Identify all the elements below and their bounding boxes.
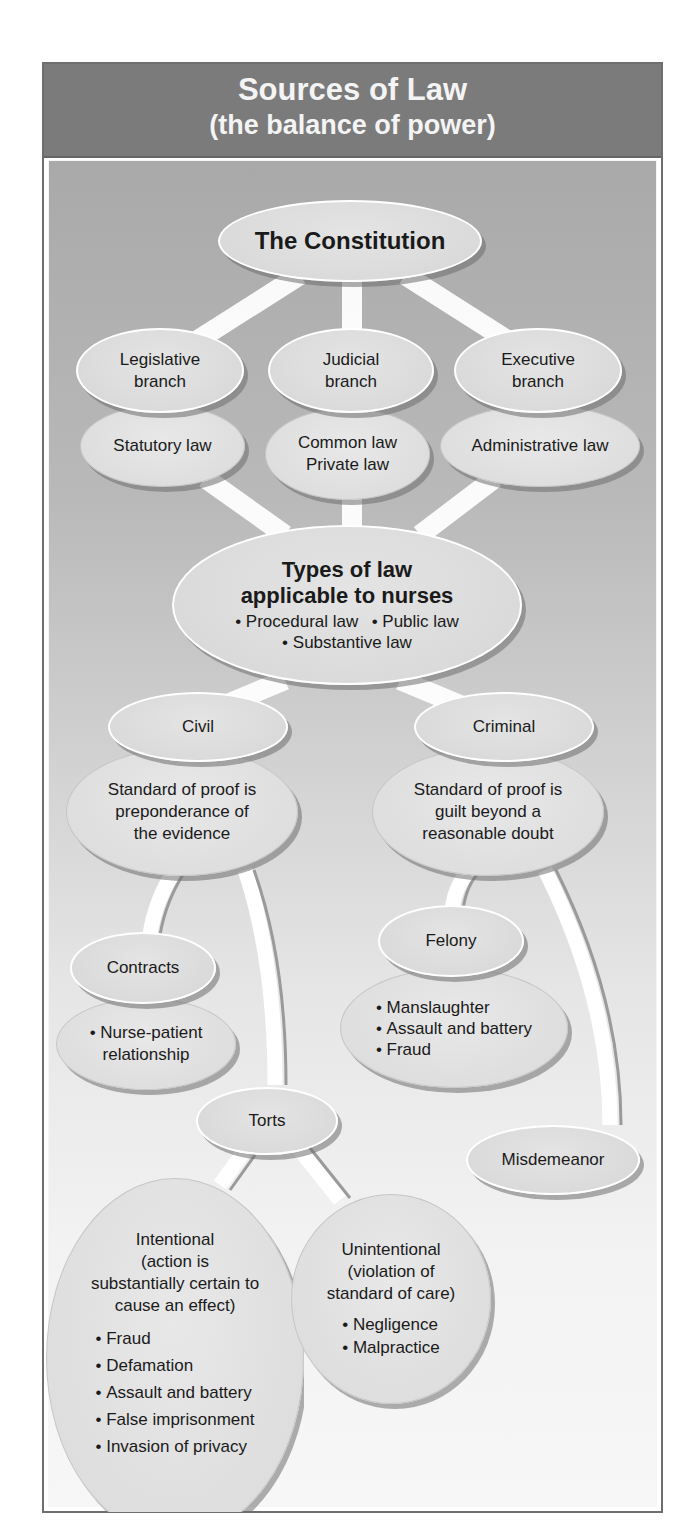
unintentional-title-line1: Unintentional bbox=[341, 1239, 440, 1261]
legislative-branch-line1: Legislative bbox=[120, 349, 200, 371]
intentional-items: Fraud Defamation Assault and battery Fal… bbox=[95, 1325, 254, 1460]
intentional-title-line2: (action is bbox=[141, 1251, 209, 1273]
types-items-row2: Substantive law bbox=[282, 632, 412, 653]
intentional-title-line1: Intentional bbox=[136, 1229, 214, 1251]
contracts-item-line2: relationship bbox=[103, 1044, 190, 1066]
types-of-law-oval: Types of law applicable to nurses Proced… bbox=[172, 525, 522, 685]
felony-item: Assault and battery bbox=[376, 1018, 532, 1039]
unintentional-oval: Unintentional (violation of standard of … bbox=[291, 1194, 491, 1404]
intentional-item: Invasion of privacy bbox=[95, 1433, 254, 1460]
civil-label: Civil bbox=[182, 716, 214, 738]
diagram-header: Sources of Law (the balance of power) bbox=[44, 64, 661, 158]
constitution-label: The Constitution bbox=[255, 226, 446, 256]
executive-branch-line2: branch bbox=[512, 371, 564, 393]
contracts-oval: Contracts bbox=[70, 932, 216, 1004]
types-item-procedural: Procedural law bbox=[235, 612, 358, 631]
types-item-substantive: Substantive law bbox=[282, 633, 412, 652]
legislative-branch-oval: Legislative branch bbox=[76, 328, 244, 413]
criminal-standard-line2: guilt beyond a bbox=[435, 801, 541, 823]
private-law-label: Private law bbox=[306, 454, 389, 476]
unintentional-items: Negligence Malpractice bbox=[342, 1313, 440, 1359]
civil-standard-line1: Standard of proof is bbox=[108, 779, 256, 801]
criminal-oval: Criminal bbox=[414, 692, 594, 762]
diagram-title: Sources of Law bbox=[44, 64, 661, 108]
civil-oval: Civil bbox=[108, 692, 288, 762]
felony-items: Manslaughter Assault and battery Fraud bbox=[376, 997, 532, 1060]
intentional-item: Defamation bbox=[95, 1352, 254, 1379]
torts-oval: Torts bbox=[196, 1087, 338, 1155]
common-law-label: Common law bbox=[298, 432, 397, 454]
statutory-law-label: Statutory law bbox=[113, 435, 211, 457]
judicial-branch-oval: Judicial branch bbox=[268, 328, 434, 413]
contracts-detail-oval: • Nurse-patient relationship bbox=[56, 998, 236, 1090]
types-items-row1: Procedural law Public law bbox=[235, 611, 459, 632]
administrative-law-oval: Administrative law bbox=[440, 405, 640, 487]
unintentional-title-line3: standard of care) bbox=[327, 1283, 456, 1305]
misdemeanor-oval: Misdemeanor bbox=[466, 1125, 640, 1195]
intentional-item: Fraud bbox=[95, 1325, 254, 1352]
intentional-item: Assault and battery bbox=[95, 1379, 254, 1406]
types-title-line2: applicable to nurses bbox=[241, 583, 454, 609]
judicial-branch-line2: branch bbox=[325, 371, 377, 393]
intentional-item: False imprisonment bbox=[95, 1406, 254, 1433]
felony-item: Manslaughter bbox=[376, 997, 532, 1018]
felony-oval: Felony bbox=[378, 905, 524, 977]
constitution-oval: The Constitution bbox=[218, 200, 482, 282]
executive-branch-oval: Executive branch bbox=[454, 328, 622, 413]
contracts-item-line1: • Nurse-patient bbox=[90, 1022, 203, 1044]
judicial-branch-line1: Judicial bbox=[323, 349, 380, 371]
civil-standard-line2: preponderance of bbox=[115, 801, 248, 823]
civil-standard-oval: Standard of proof is preponderance of th… bbox=[66, 748, 298, 876]
misdemeanor-label: Misdemeanor bbox=[502, 1149, 605, 1171]
executive-branch-line1: Executive bbox=[501, 349, 575, 371]
torts-label: Torts bbox=[249, 1110, 286, 1132]
legislative-branch-line2: branch bbox=[134, 371, 186, 393]
intentional-title-line3: substantially certain to bbox=[91, 1273, 259, 1295]
criminal-label: Criminal bbox=[473, 716, 535, 738]
intentional-title-line4: cause an effect) bbox=[115, 1295, 236, 1317]
criminal-standard-line1: Standard of proof is bbox=[414, 779, 562, 801]
criminal-standard-oval: Standard of proof is guilt beyond a reas… bbox=[372, 748, 604, 876]
diagram-subtitle: (the balance of power) bbox=[44, 108, 661, 142]
felony-item: Fraud bbox=[376, 1039, 532, 1060]
administrative-law-label: Administrative law bbox=[472, 435, 609, 457]
felony-label: Felony bbox=[425, 930, 476, 952]
criminal-standard-line3: reasonable doubt bbox=[422, 823, 553, 845]
unintentional-title-line2: (violation of bbox=[348, 1261, 435, 1283]
statutory-law-oval: Statutory law bbox=[80, 405, 245, 487]
contracts-label: Contracts bbox=[107, 957, 180, 979]
types-title-line1: Types of law bbox=[282, 557, 412, 583]
intentional-oval: Intentional (action is substantially cer… bbox=[46, 1178, 304, 1528]
civil-standard-line3: the evidence bbox=[134, 823, 230, 845]
common-private-law-oval: Common law Private law bbox=[265, 408, 430, 500]
types-item-public: Public law bbox=[372, 612, 459, 631]
unintentional-item: Negligence bbox=[342, 1313, 440, 1336]
unintentional-item: Malpractice bbox=[342, 1336, 440, 1359]
felony-detail-oval: Manslaughter Assault and battery Fraud bbox=[340, 968, 568, 1088]
